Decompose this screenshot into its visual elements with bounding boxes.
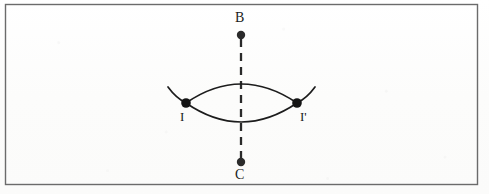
point-label-b: B [235, 11, 244, 25]
point-marker-b [237, 31, 245, 39]
diagram-canvas [0, 0, 489, 194]
point-label-i: I [180, 110, 184, 123]
point-marker-c [237, 158, 245, 166]
point-label-i-prime: I' [300, 110, 307, 123]
point-marker-i-prime [292, 98, 302, 108]
point-label-c: C [235, 168, 244, 182]
point-marker-i [181, 98, 191, 108]
figure-container: B C I I' [0, 0, 489, 194]
